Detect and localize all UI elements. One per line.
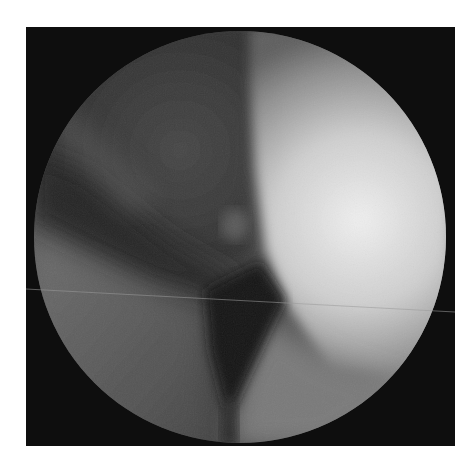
endoscopic-image	[0, 0, 475, 469]
image-stage: Grayscale endoscopic/arthroscopic circul…	[0, 0, 475, 469]
